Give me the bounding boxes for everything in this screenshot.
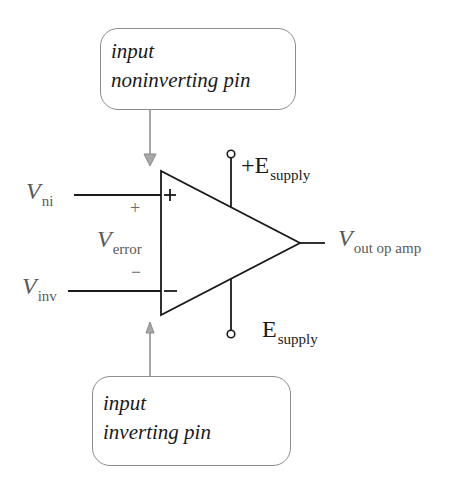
negative-supply-terminal-icon (227, 330, 235, 338)
down-arrow-icon (144, 154, 156, 166)
noninverting-pin-callout: input noninverting pin (100, 28, 296, 110)
positive-supply-label: +Esupply (241, 152, 310, 179)
negative-supply-label: Esupply (262, 316, 318, 343)
error-minus-sign: − (131, 262, 141, 283)
callout-line-1: input (103, 389, 290, 418)
v-ni-label: Vni (26, 178, 53, 205)
inverting-pin-callout: input inverting pin (92, 376, 291, 466)
callout-line-1: input (111, 37, 295, 66)
callout-line-2: inverting pin (103, 418, 290, 447)
v-inv-label: Vinv (22, 273, 57, 300)
callout-line-2: noninverting pin (111, 66, 295, 95)
up-arrow-icon (146, 322, 154, 333)
error-plus-sign: + (130, 198, 140, 219)
positive-supply-terminal-icon (227, 150, 235, 158)
v-error-label: Verror (97, 226, 142, 253)
v-out-label: Vout op amp (338, 225, 421, 252)
